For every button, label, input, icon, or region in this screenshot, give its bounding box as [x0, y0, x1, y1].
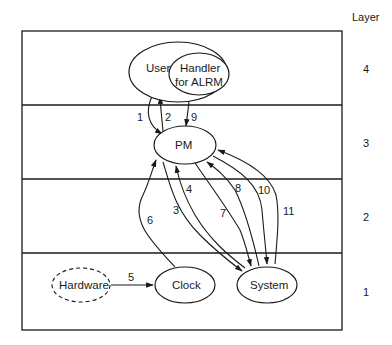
edge-7-label: 7 — [220, 207, 226, 219]
edge-5-label: 5 — [128, 271, 134, 283]
layer-label-1: 1 — [363, 286, 369, 298]
edge-11-label: 11 — [283, 205, 294, 217]
clock-label: Clock — [172, 279, 201, 291]
edge-9-label: 9 — [191, 111, 197, 123]
layer-label-3: 3 — [363, 137, 369, 149]
edge-6-arrow — [139, 160, 175, 267]
node-clock: Clock — [155, 267, 215, 303]
layer-label-2: 2 — [363, 211, 369, 223]
edge-2-arrow — [160, 97, 163, 131]
edge-4-label: 4 — [186, 183, 192, 195]
pm-label: PM — [175, 139, 192, 151]
edge-2-label: 2 — [165, 111, 171, 123]
edge-3-label: 3 — [173, 204, 179, 216]
edge-6-label: 6 — [147, 214, 153, 226]
user-label: User — [146, 62, 170, 74]
system-label: System — [250, 279, 288, 291]
hardware-label: Hardware — [59, 279, 109, 291]
edge-8-arrow — [207, 162, 259, 266]
node-hardware: Hardware — [52, 268, 110, 302]
node-pm: PM — [154, 126, 216, 164]
edge-8-label: 8 — [235, 182, 241, 194]
edge-1-label: 1 — [137, 111, 143, 123]
edge-10-label: 10 — [258, 184, 270, 196]
handler-label-line2: for ALRM — [175, 76, 223, 88]
node-system: System — [237, 267, 297, 303]
edge-11-arrow — [218, 150, 278, 264]
alarm-signal-diagram: Layer 4 3 2 1 1 2 9 6 3 4 7 8 10 11 5 Us… — [0, 0, 392, 345]
handler-label-line1: Handler — [180, 62, 220, 74]
layer-header: Layer — [352, 11, 380, 23]
handler-ellipse — [169, 53, 229, 95]
layer-label-4: 4 — [363, 63, 369, 75]
node-handler-for-alrm: Handler for ALRM — [169, 53, 229, 95]
